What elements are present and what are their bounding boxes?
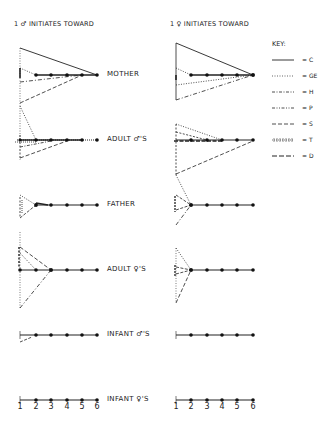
left-tick-6: 6: [92, 402, 102, 411]
right-infant-males-graph: [176, 331, 253, 339]
left-adult-females-graph: [19, 232, 97, 308]
right-tick-4: 4: [217, 402, 227, 411]
left-tick-3: 3: [46, 402, 56, 411]
dash-dot-line-icon: [272, 89, 298, 95]
sequence-nodes: [18, 73, 255, 402]
hatched-line-icon: [272, 137, 298, 143]
right-tick-5: 5: [232, 402, 242, 411]
right-tick-2: 2: [186, 402, 196, 411]
left-tick-1: 1: [15, 402, 25, 411]
right-mother-graph: [176, 43, 253, 100]
right-tick-6: 6: [248, 402, 258, 411]
left-tick-4: 4: [62, 402, 72, 411]
sequence-diagram: [0, 0, 328, 428]
right-tick-1: 1: [171, 402, 181, 411]
right-adult-males-graph: [174, 124, 253, 175]
long-dash-line-icon: [272, 153, 298, 159]
left-tick-5: 5: [77, 402, 87, 411]
right-father-graph: [175, 175, 253, 225]
dashed-line-icon: [272, 121, 298, 127]
left-mother-graph: [20, 48, 97, 140]
dash-dot-dot-line-icon: [272, 105, 298, 111]
right-adult-females-graph: [175, 248, 253, 303]
left-infant-males-graph: [20, 331, 97, 342]
solid-line-icon: [272, 57, 298, 63]
dotted-line-icon: [272, 73, 298, 79]
left-tick-2: 2: [31, 402, 41, 411]
key-title: KEY:: [272, 40, 286, 48]
right-tick-3: 3: [202, 402, 212, 411]
left-adult-males-graph: [15, 106, 97, 160]
left-father-graph: [20, 195, 97, 218]
